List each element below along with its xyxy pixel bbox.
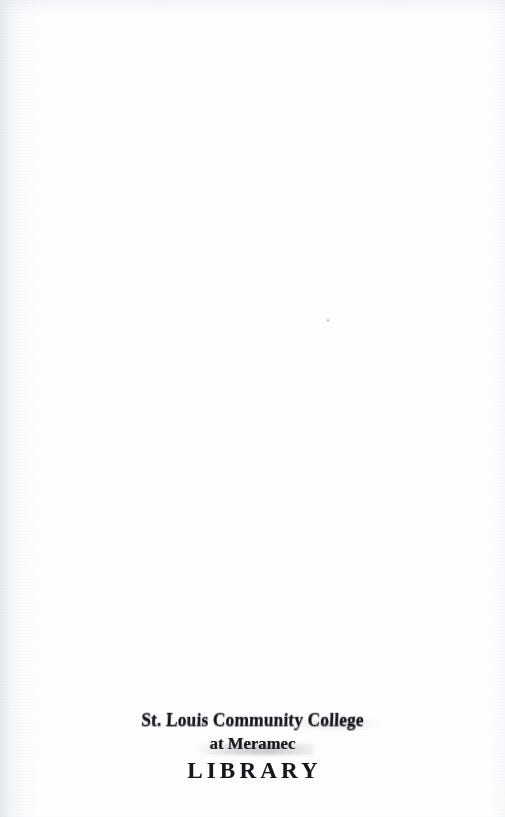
stamp-campus-line: at Meramec bbox=[0, 733, 505, 754]
right-edge-shadow bbox=[483, 0, 505, 817]
stamp-institution-line: St. Louis Community College bbox=[0, 710, 505, 731]
gutter-shadow bbox=[0, 0, 46, 817]
paper-surface bbox=[0, 0, 505, 817]
top-edge-shadow bbox=[0, 0, 505, 26]
stamp-department-line: LIBRARY bbox=[0, 757, 505, 784]
ink-speck bbox=[327, 319, 329, 322]
scanned-page: St. Louis Community College at Meramec L… bbox=[0, 0, 505, 817]
library-ownership-stamp: St. Louis Community College at Meramec L… bbox=[0, 710, 505, 784]
